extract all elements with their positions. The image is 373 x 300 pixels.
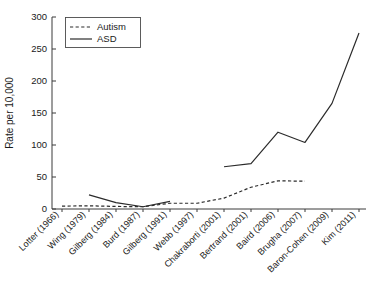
y-tick-label: 50	[36, 171, 47, 182]
y-tick-label: 300	[31, 11, 47, 22]
legend-label-asd: ASD	[97, 33, 117, 44]
y-axis-title-text: Rate per 10,000	[4, 77, 15, 149]
chart-legend: Autism ASD	[66, 18, 141, 48]
y-tick-label: 200	[31, 75, 47, 86]
series-line-autism	[62, 181, 305, 207]
x-tick-labels: Lotter (1966) Wing (1979) Gilberg (1984)…	[17, 209, 358, 274]
y-tick-label: 100	[31, 139, 47, 150]
legend-label-autism: Autism	[97, 21, 126, 32]
y-axis-title: Rate per 10,000	[4, 77, 15, 149]
series-line-asd	[89, 33, 359, 207]
y-tick-label: 150	[31, 107, 47, 118]
x-tick-label: Bertrand (2001)	[198, 209, 250, 261]
y-tick-label: 0	[42, 203, 47, 214]
chart-figure: Rate per 10,000 0 50 100 150 200 250 300	[0, 0, 373, 300]
chart-svg: Rate per 10,000 0 50 100 150 200 250 300	[0, 0, 373, 300]
y-tick-label: 250	[31, 43, 47, 54]
